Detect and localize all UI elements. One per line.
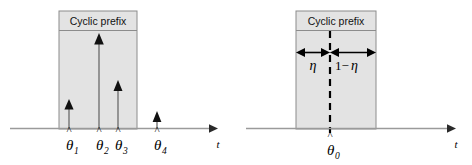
time-axis-arrowhead <box>209 124 218 133</box>
left-panel-diagram: Cyclic prefix t <box>0 0 236 165</box>
impulse-head-theta-4 <box>153 111 162 122</box>
cyclic-prefix-label: Cyclic prefix <box>70 15 127 27</box>
theta-4-symbol: θ <box>154 137 162 153</box>
panel-right: Cyclic prefix η 1− η <box>236 0 472 165</box>
tick-label-theta-0: ^ θ 0 <box>327 129 340 161</box>
theta-1-subscript: 1 <box>74 146 79 156</box>
figure-root: Cyclic prefix t <box>0 0 472 165</box>
theta-1-symbol: θ <box>66 137 74 153</box>
theta-0-subscript: 0 <box>335 151 340 161</box>
time-axis-label: t <box>216 138 220 150</box>
cyclic-prefix-label: Cyclic prefix <box>308 15 365 27</box>
panel-left: Cyclic prefix t <box>0 0 236 165</box>
eta-label: η <box>310 58 317 73</box>
time-axis-arrowhead <box>447 124 456 133</box>
cyclic-prefix-box <box>59 11 137 129</box>
theta-3-hat-icon: ^ <box>115 124 121 136</box>
one-minus-eta-label: 1− η <box>335 58 358 73</box>
theta-2-hat-icon: ^ <box>96 124 102 136</box>
theta-0-symbol: θ <box>327 142 335 158</box>
theta-2-subscript: 2 <box>104 146 109 156</box>
theta-0-hat-icon: ^ <box>327 129 333 141</box>
theta-3-symbol: θ <box>115 137 123 153</box>
theta-1-hat-icon: ^ <box>66 124 72 136</box>
time-axis-label: t <box>454 138 458 150</box>
right-panel-diagram: Cyclic prefix η 1− η <box>236 0 472 165</box>
theta-4-hat-icon: ^ <box>154 124 160 136</box>
theta-2-symbol: θ <box>96 137 104 153</box>
one-minus-eta-symbol: η <box>351 58 358 73</box>
one-minus-eta-prefix: 1− <box>335 58 349 73</box>
theta-3-subscript: 3 <box>122 146 128 156</box>
theta-4-subscript: 4 <box>162 146 167 156</box>
